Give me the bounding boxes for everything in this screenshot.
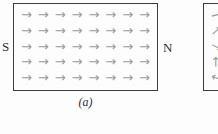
magnet-a-outline: →→→→→→→→→→→→→→→→→→→→→→→→→→→→→→→→→→→→→→→→ [13, 3, 158, 91]
field-arrow-row: → [211, 26, 218, 36]
field-arrow-icon: → [139, 26, 150, 36]
field-arrow-icon: → [88, 57, 99, 67]
field-arrow-icon: → [55, 73, 66, 83]
north-pole-label: N [163, 41, 172, 54]
magnet-b-field-grid: →→→→→ [204, 4, 218, 90]
field-arrow-icon: → [209, 23, 218, 38]
field-arrow-row: →→→→→→→→ [21, 57, 150, 67]
field-arrow-icon: → [209, 40, 218, 54]
field-arrow-icon: → [210, 71, 218, 84]
field-arrow-icon: → [38, 26, 49, 36]
field-arrow-icon: → [72, 10, 83, 20]
field-arrow-icon: → [122, 73, 133, 83]
field-arrow-icon: → [139, 57, 150, 67]
field-arrow-icon: → [21, 42, 32, 52]
field-arrow-icon: → [139, 42, 150, 52]
field-arrow-icon: → [211, 57, 218, 68]
field-arrow-icon: → [105, 73, 116, 83]
field-arrow-icon: → [21, 26, 32, 36]
field-arrow-row: → [211, 42, 218, 52]
field-arrow-icon: → [72, 73, 83, 83]
field-arrow-icon: → [139, 73, 150, 83]
field-arrow-icon: → [105, 26, 116, 36]
field-arrow-icon: → [38, 57, 49, 67]
field-arrow-icon: → [210, 9, 218, 21]
field-arrow-icon: → [38, 10, 49, 20]
field-arrow-row: →→→→→→→→ [21, 10, 150, 20]
south-pole-label: S [2, 40, 9, 53]
field-arrow-icon: → [55, 42, 66, 52]
field-arrow-icon: → [55, 57, 66, 67]
magnet-a-field-grid: →→→→→→→→→→→→→→→→→→→→→→→→→→→→→→→→→→→→→→→→ [14, 4, 157, 90]
field-arrow-icon: → [122, 42, 133, 52]
field-arrow-icon: → [105, 57, 116, 67]
field-arrow-row: → [211, 10, 218, 20]
field-arrow-icon: → [21, 73, 32, 83]
field-arrow-icon: → [122, 26, 133, 36]
field-arrow-icon: → [38, 42, 49, 52]
field-arrow-icon: → [21, 10, 32, 20]
field-arrow-row: → [211, 57, 218, 67]
field-arrow-icon: → [88, 42, 99, 52]
field-arrow-icon: → [38, 73, 49, 83]
field-arrow-row: →→→→→→→→ [21, 73, 150, 83]
field-arrow-icon: → [55, 26, 66, 36]
field-arrow-icon: → [72, 57, 83, 67]
field-arrow-icon: → [139, 10, 150, 20]
magnet-b-outline: →→→→→ [203, 3, 218, 91]
field-arrow-row: →→→→→→→→ [21, 42, 150, 52]
field-arrow-icon: → [55, 10, 66, 20]
field-arrow-icon: → [72, 26, 83, 36]
figure-a-caption: (a) [13, 95, 158, 110]
field-arrow-icon: → [21, 57, 32, 67]
field-arrow-icon: → [88, 26, 99, 36]
field-arrow-icon: → [88, 10, 99, 20]
field-arrow-icon: → [72, 42, 83, 52]
field-arrow-icon: → [88, 73, 99, 83]
field-arrow-icon: → [122, 10, 133, 20]
field-arrow-icon: → [105, 10, 116, 20]
field-arrow-icon: → [105, 42, 116, 52]
field-arrow-row: →→→→→→→→ [21, 26, 150, 36]
field-arrow-icon: → [122, 57, 133, 67]
field-arrow-row: → [211, 73, 218, 83]
magnetization-diagram: →→→→→→→→→→→→→→→→→→→→→→→→→→→→→→→→→→→→→→→→… [0, 0, 218, 134]
